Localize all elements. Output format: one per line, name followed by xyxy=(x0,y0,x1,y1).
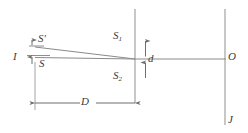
label-slit-lower-subscript: 2 xyxy=(119,75,123,83)
label-screen-plane: J xyxy=(228,114,233,125)
label-slit-lower-base: S xyxy=(113,69,119,81)
diagram-canvas: I S' S S1 S2 d O J D xyxy=(0,0,248,133)
diagram-linework xyxy=(0,0,248,133)
label-slit-lower: S2 xyxy=(113,70,122,81)
label-screen-center: O xyxy=(228,51,236,62)
label-slit-separation: d xyxy=(148,53,154,64)
label-slit-upper-base: S xyxy=(113,29,119,41)
label-source-plane: I xyxy=(13,51,17,62)
label-source-upper: S' xyxy=(38,33,46,44)
ray-lower-source-to-slit xyxy=(35,58,135,60)
label-slit-upper: S1 xyxy=(113,30,122,41)
label-source-lower: S xyxy=(39,58,45,69)
label-distance: D xyxy=(81,96,89,107)
label-slit-upper-subscript: 1 xyxy=(119,35,123,43)
ray-upper-source-to-slit xyxy=(35,47,135,59)
